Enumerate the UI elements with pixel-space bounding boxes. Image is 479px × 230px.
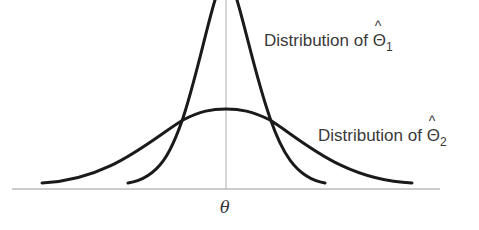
theta-axis-label: θ — [220, 198, 230, 217]
label-text: Distribution of — [318, 126, 427, 145]
subscript: 1 — [386, 40, 393, 54]
theta-hat-2-symbol: ^Θ — [427, 126, 440, 146]
distribution-1-label: Distribution of ^Θ1 — [264, 31, 393, 54]
hat-accent: ^ — [429, 113, 436, 129]
distribution-diagram — [0, 0, 479, 230]
hat-accent: ^ — [375, 18, 382, 34]
subscript: 2 — [440, 135, 447, 149]
label-text: Distribution of — [264, 31, 373, 50]
distribution-2-label: Distribution of ^Θ2 — [318, 126, 447, 149]
theta-hat-1-symbol: ^Θ — [373, 31, 386, 51]
